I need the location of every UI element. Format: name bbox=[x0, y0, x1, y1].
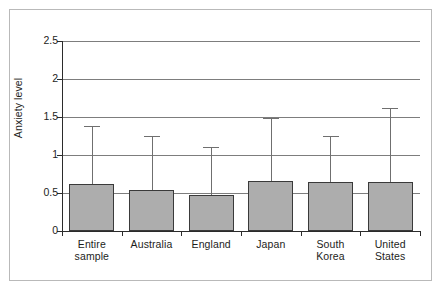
error-bar-stem-australia bbox=[152, 136, 153, 190]
error-bar-stem-japan bbox=[271, 118, 272, 181]
error-bar-cap-japan bbox=[263, 118, 279, 119]
error-bar-cap-australia bbox=[144, 136, 160, 137]
bar-japan bbox=[248, 181, 293, 231]
chart-plot-area: Anxiety level 2.5 2 1.5 1 0.5 bbox=[0, 0, 446, 294]
y-axis-line bbox=[62, 41, 63, 231]
error-bar-cap-entire-sample bbox=[84, 126, 100, 127]
x-axis-label-line: sample bbox=[62, 250, 122, 262]
x-tick-mark-3 bbox=[241, 231, 242, 236]
error-bar-stem-united-states bbox=[390, 108, 391, 182]
y-tick-label-2-wrap: 2 bbox=[30, 79, 58, 80]
y-tick-label-0-wrap: 0 bbox=[30, 231, 58, 232]
y-tick-label-2: 2 bbox=[32, 73, 58, 84]
bar-south-korea bbox=[308, 182, 353, 231]
y-tick-label-0.5: 0.5 bbox=[32, 187, 58, 198]
x-tick-mark-0 bbox=[62, 231, 63, 236]
y-tick-label-1: 1 bbox=[32, 149, 58, 160]
y-tick-label-1.5-wrap: 1.5 bbox=[30, 117, 58, 118]
y-tick-label-2.5: 2.5 bbox=[32, 35, 58, 46]
x-axis-label-entire-sample: Entiresample bbox=[62, 238, 122, 262]
error-bar-stem-south-korea bbox=[330, 136, 331, 182]
x-axis-label-line: Entire bbox=[62, 238, 122, 250]
y-axis-title: Anxiety level bbox=[12, 63, 24, 153]
x-axis-label-line: South bbox=[301, 238, 361, 250]
gridline-1.5 bbox=[62, 117, 420, 118]
x-axis-label-south-korea: SouthKorea bbox=[301, 238, 361, 262]
x-axis-label-line: Australia bbox=[122, 238, 182, 250]
x-tick-mark-4 bbox=[301, 231, 302, 236]
x-axis-label-australia: Australia bbox=[122, 238, 182, 250]
x-axis-label-line: England bbox=[181, 238, 241, 250]
error-bar-stem-entire-sample bbox=[92, 126, 93, 184]
x-axis-label-united-states: UnitedStates bbox=[360, 238, 420, 262]
x-axis-label-line: Korea bbox=[301, 250, 361, 262]
bar-united-states bbox=[368, 182, 413, 231]
error-bar-stem-england bbox=[211, 147, 212, 195]
figure-container: Anxiety level 2.5 2 1.5 1 0.5 bbox=[0, 0, 446, 294]
gridline-0.5 bbox=[62, 193, 420, 194]
bar-entire-sample bbox=[69, 184, 114, 231]
y-tick-label-1-wrap: 1 bbox=[30, 155, 58, 156]
error-bar-cap-united-states bbox=[382, 108, 398, 109]
bar-australia bbox=[129, 190, 174, 231]
y-tick-label-1.5: 1.5 bbox=[32, 111, 58, 122]
gridline-1 bbox=[62, 155, 420, 156]
x-axis-label-line: States bbox=[360, 250, 420, 262]
x-tick-mark-1 bbox=[122, 231, 123, 236]
x-tick-mark-2 bbox=[181, 231, 182, 236]
y-tick-label-2.5-wrap: 2.5 bbox=[30, 41, 58, 42]
y-tick-label-0: 0 bbox=[32, 225, 58, 236]
gridline-2 bbox=[62, 79, 420, 80]
x-axis-label-line: United bbox=[360, 238, 420, 250]
y-tick-label-0.5-wrap: 0.5 bbox=[30, 193, 58, 194]
gridline-2.5 bbox=[62, 41, 420, 42]
x-tick-mark-5 bbox=[360, 231, 361, 236]
error-bar-cap-england bbox=[203, 147, 219, 148]
x-axis-label-line: Japan bbox=[241, 238, 301, 250]
x-tick-mark-6 bbox=[420, 231, 421, 236]
x-axis-label-japan: Japan bbox=[241, 238, 301, 250]
error-bar-cap-south-korea bbox=[323, 136, 339, 137]
x-axis-label-england: England bbox=[181, 238, 241, 250]
bar-england bbox=[189, 195, 234, 231]
